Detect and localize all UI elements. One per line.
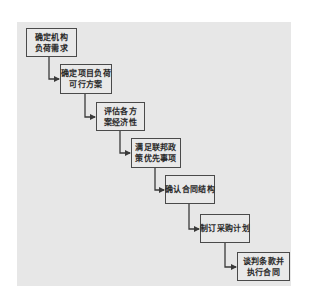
step-box-5-confirm-contract-structure: 确认合同结构 bbox=[165, 175, 215, 204]
step-7-line-2: 执行合同 bbox=[247, 267, 280, 278]
step-box-4-meet-federal-priorities: 满足联邦政 策优先事项 bbox=[131, 138, 181, 168]
step-3-line-2: 案经济性 bbox=[104, 117, 137, 128]
step-3-line-1: 评估各方 bbox=[104, 106, 137, 117]
step-5-line-1: 确认合同结构 bbox=[165, 184, 215, 195]
step-box-7-negotiate-and-execute-contract: 谈判条款并 执行合同 bbox=[237, 252, 290, 281]
step-1-line-2: 负荷需求 bbox=[35, 43, 68, 54]
step-1-line-1: 确定机构 bbox=[35, 32, 68, 43]
step-box-6-develop-procurement-plan: 制订采购计划 bbox=[200, 214, 250, 243]
step-4-line-2: 策优先事项 bbox=[135, 153, 177, 164]
step-box-3-evaluate-economics: 评估各方 案经济性 bbox=[96, 102, 145, 131]
step-box-1-determine-agency-load-demand: 确定机构 负荷需求 bbox=[26, 28, 77, 57]
step-6-line-1: 制订采购计划 bbox=[200, 223, 250, 234]
step-4-line-1: 满足联邦政 bbox=[135, 142, 177, 153]
step-7-line-1: 谈判条款并 bbox=[243, 256, 285, 267]
step-box-2-determine-project-feasible-plan: 确定项目负荷 可行方案 bbox=[60, 64, 112, 94]
step-2-line-2: 可行方案 bbox=[69, 79, 102, 90]
step-2-line-1: 确定项目负荷 bbox=[61, 68, 111, 79]
